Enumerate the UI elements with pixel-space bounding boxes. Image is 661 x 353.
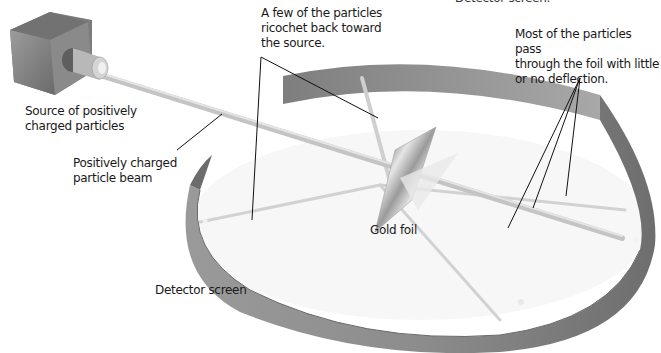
label-detector-screen: Detector screen (155, 283, 247, 298)
label-gold-foil: Gold foil (370, 223, 417, 238)
impact-flash (633, 237, 639, 243)
gold-foil-diagram: Detector screen. A few of the particles … (0, 0, 661, 353)
impact-flash (203, 219, 208, 224)
label-pass-through: Most of the particles pass through the f… (515, 27, 661, 87)
label-cut-off-top: Detector screen. (455, 0, 550, 6)
label-beam: Positively charged particle beam (73, 156, 177, 186)
particle-source (10, 12, 108, 95)
label-source: Source of positively charged particles (25, 104, 137, 134)
label-ricochet: A few of the particles ricochet back tow… (261, 6, 382, 51)
impact-flash (518, 299, 524, 305)
